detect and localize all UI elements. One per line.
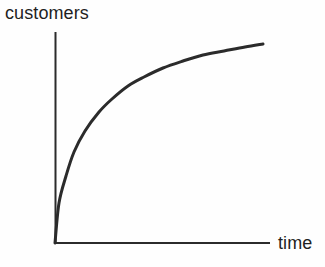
- x-axis-label: time: [278, 234, 312, 252]
- y-axis-label: customers: [5, 4, 89, 22]
- chart-figure: customers time: [0, 0, 325, 267]
- axes-group: [55, 32, 270, 244]
- chart-plot-area: [0, 0, 325, 267]
- data-curve-customers: [55, 44, 263, 243]
- series-group: [55, 44, 263, 243]
